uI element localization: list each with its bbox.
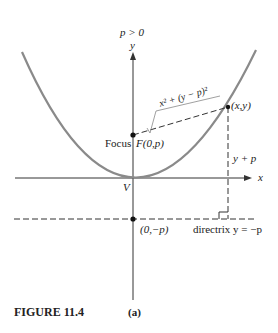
curve-point-label: (x,y) (231, 100, 251, 111)
focus-point (130, 132, 135, 137)
directrix-point-label: (0,−p) (140, 224, 169, 235)
vertex-label: V (123, 182, 130, 193)
focus-point-label: F(0,p) (136, 138, 164, 149)
parabola-diagram (0, 0, 278, 333)
y-axis-label: y (130, 40, 135, 51)
y-axis-arrow-icon (130, 52, 136, 60)
curve-point (226, 105, 230, 109)
x-axis-arrow-icon (244, 175, 252, 181)
figure-caption: FIGURE 11.4 (14, 305, 84, 320)
parabola-curve (22, 50, 256, 178)
right-angle-marker (219, 212, 228, 219)
directrix-label: directrix y = −p (193, 224, 262, 235)
panel-label: (a) (128, 306, 141, 318)
distance-to-directrix-label: y + p (233, 153, 256, 164)
directrix-point (130, 216, 135, 221)
focus-word-label: Focus (105, 138, 131, 149)
condition-label: p > 0 (120, 27, 144, 38)
x-axis-label: x (258, 172, 263, 183)
